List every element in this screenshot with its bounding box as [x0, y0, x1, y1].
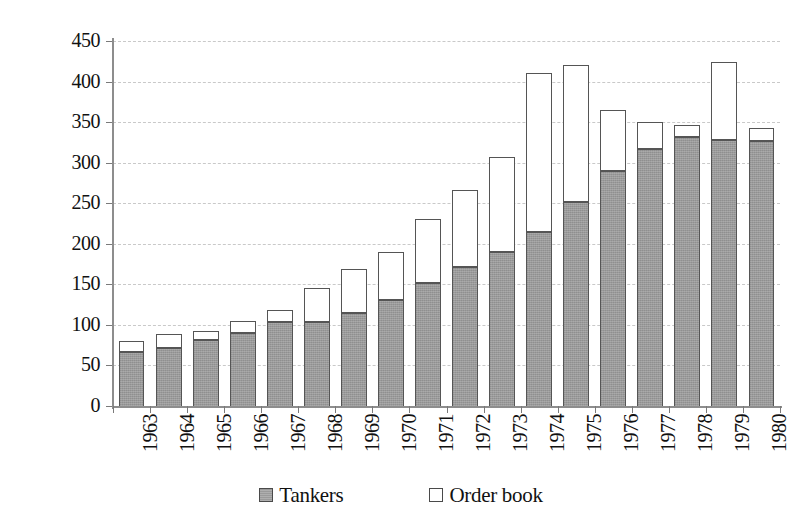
- bar-segment-tankers-1974: [526, 232, 552, 406]
- x-tick-1969: [335, 406, 336, 413]
- y-tick-label-150: 150: [0, 273, 100, 293]
- x-tick-1976: [595, 406, 596, 413]
- x-tick-end: [780, 406, 781, 413]
- bar-segment-tankers-1977: [637, 149, 663, 406]
- bar-group-1965: [193, 41, 219, 406]
- x-tick-1975: [558, 406, 559, 413]
- bar-segment-tankers-1964: [156, 348, 182, 406]
- legend-item-tankers: Tankers: [259, 484, 343, 506]
- x-tick-label-1964: 1964: [177, 414, 197, 452]
- bar-segment-tankers-1976: [600, 171, 626, 406]
- x-tick-label-1979: 1979: [732, 414, 752, 452]
- bar-segment-order-book-1975: [563, 65, 589, 203]
- bar-segment-tankers-1971: [415, 283, 441, 406]
- bar-segment-tankers-1968: [304, 322, 330, 406]
- bar-group-1974: [526, 41, 552, 406]
- bar-group-1966: [230, 41, 256, 406]
- bar-segment-tankers-1969: [341, 313, 367, 406]
- bar-segment-order-book-1963: [119, 341, 145, 352]
- x-tick-1967: [261, 406, 262, 413]
- x-tick-1978: [669, 406, 670, 413]
- y-tick-label-200: 200: [0, 233, 100, 253]
- y-tick-label-100: 100: [0, 314, 100, 334]
- bar-group-1972: [452, 41, 478, 406]
- x-tick-1979: [706, 406, 707, 413]
- bar-group-1969: [341, 41, 367, 406]
- bar-group-1968: [304, 41, 330, 406]
- y-tick-label-450: 450: [0, 30, 100, 50]
- x-tick-1974: [521, 406, 522, 413]
- x-tick-1968: [298, 406, 299, 413]
- chart-legend: Tankers Order book: [0, 484, 802, 506]
- bar-group-1971: [415, 41, 441, 406]
- x-tick-1977: [632, 406, 633, 413]
- y-tick-label-400: 400: [0, 71, 100, 91]
- legend-swatch-order-book-icon: [429, 488, 443, 502]
- bar-segment-order-book-1964: [156, 334, 182, 349]
- x-tick-label-1973: 1973: [510, 414, 530, 452]
- x-tick-1980: [743, 406, 744, 413]
- legend-item-order-book: Order book: [429, 484, 542, 506]
- x-tick-label-1968: 1968: [325, 414, 345, 452]
- bar-group-1964: [156, 41, 182, 406]
- bar-segment-tankers-1970: [378, 300, 404, 406]
- bar-segment-order-book-1980: [749, 128, 775, 141]
- x-tick-label-1969: 1969: [362, 414, 382, 452]
- bar-segment-order-book-1969: [341, 269, 367, 313]
- x-tick-1971: [409, 406, 410, 413]
- x-tick-1963: [113, 406, 114, 413]
- x-tick-label-1966: 1966: [251, 414, 271, 452]
- x-tick-1970: [372, 406, 373, 413]
- x-tick-label-1974: 1974: [547, 414, 567, 452]
- chart-container: 050100150200250300350400450 196319641965…: [0, 0, 802, 531]
- bar-group-1973: [489, 41, 515, 406]
- bar-group-1967: [267, 41, 293, 406]
- bar-segment-tankers-1975: [563, 202, 589, 406]
- x-tick-1964: [150, 406, 151, 413]
- bar-group-1979: [711, 41, 737, 406]
- x-axis-labels: 1963196419651966196719681969197019711972…: [113, 414, 780, 484]
- legend-label-tankers: Tankers: [279, 484, 343, 506]
- bars-layer: [113, 41, 780, 406]
- x-tick-1965: [187, 406, 188, 413]
- bar-segment-order-book-1976: [600, 110, 626, 171]
- x-tick-label-1978: 1978: [695, 414, 715, 452]
- bar-group-1970: [378, 41, 404, 406]
- bar-group-1963: [119, 41, 145, 406]
- x-tick-label-1963: 1963: [140, 414, 160, 452]
- bar-group-1977: [637, 41, 663, 406]
- x-tick-label-1980: 1980: [769, 414, 789, 452]
- bar-segment-order-book-1974: [526, 73, 552, 231]
- bar-segment-order-book-1972: [452, 190, 478, 266]
- bar-segment-tankers-1978: [674, 137, 700, 406]
- x-tick-1973: [484, 406, 485, 413]
- bar-group-1978: [674, 41, 700, 406]
- bar-group-1976: [600, 41, 626, 406]
- bar-segment-tankers-1979: [711, 140, 737, 406]
- x-tick-label-1976: 1976: [621, 414, 641, 452]
- y-tick-label-350: 350: [0, 111, 100, 131]
- bar-segment-order-book-1967: [267, 310, 293, 322]
- bar-segment-order-book-1979: [711, 62, 737, 140]
- legend-label-order-book: Order book: [449, 484, 542, 506]
- bar-segment-order-book-1971: [415, 219, 441, 283]
- x-tick-1972: [447, 406, 448, 413]
- y-tick-label-250: 250: [0, 192, 100, 212]
- x-tick-label-1965: 1965: [214, 414, 234, 452]
- bar-segment-tankers-1963: [119, 352, 145, 406]
- y-tick-label-300: 300: [0, 152, 100, 172]
- bar-segment-tankers-1967: [267, 322, 293, 406]
- bar-segment-tankers-1966: [230, 333, 256, 406]
- bar-segment-order-book-1977: [637, 122, 663, 149]
- x-tick-1966: [224, 406, 225, 413]
- legend-swatch-tankers-icon: [259, 488, 273, 502]
- bar-group-1975: [563, 41, 589, 406]
- bar-segment-order-book-1968: [304, 288, 330, 321]
- bar-segment-tankers-1973: [489, 252, 515, 406]
- x-tick-label-1971: 1971: [436, 414, 456, 452]
- bar-segment-order-book-1978: [674, 125, 700, 136]
- y-tick-label-50: 50: [0, 354, 100, 374]
- x-tick-label-1972: 1972: [473, 414, 493, 452]
- x-tick-label-1967: 1967: [288, 414, 308, 452]
- bar-segment-tankers-1972: [452, 267, 478, 407]
